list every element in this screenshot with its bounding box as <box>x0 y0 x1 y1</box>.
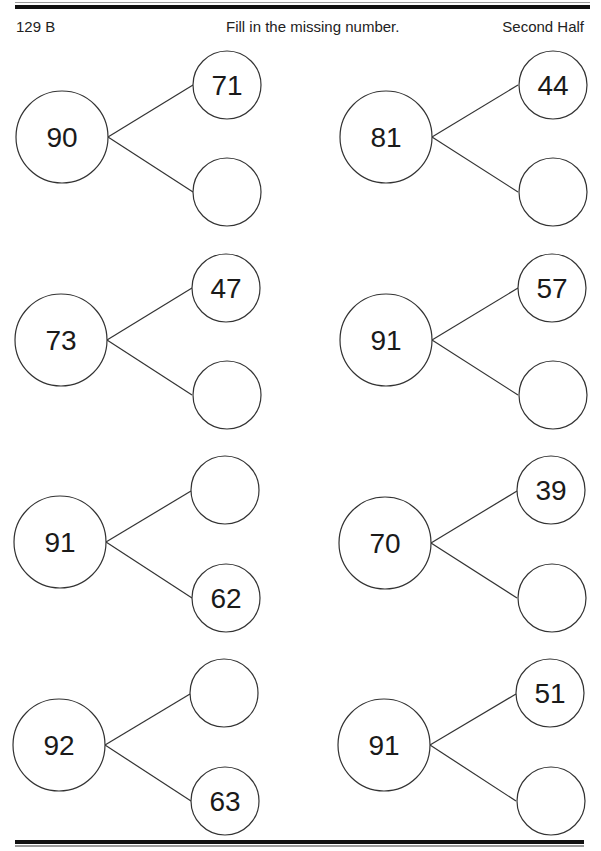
whole-value: 92 <box>43 730 74 761</box>
part-top-value: 71 <box>211 70 242 101</box>
part-top-value: 47 <box>210 273 241 304</box>
whole-value: 91 <box>370 325 401 356</box>
part-bottom-value: 62 <box>210 583 241 614</box>
bottom-thin-rule <box>15 845 584 847</box>
part-top-value: 57 <box>536 273 567 304</box>
number-bond-7: 92 63 <box>13 659 259 835</box>
part-top-circle[interactable] <box>191 456 259 524</box>
part-top-value: 39 <box>535 475 566 506</box>
number-bond-grid: 90 71 81 44 73 47 91 57 <box>0 0 601 851</box>
part-top-value: 44 <box>537 70 568 101</box>
whole-value: 73 <box>45 325 76 356</box>
part-top-circle[interactable] <box>190 659 258 727</box>
part-bottom-circle[interactable] <box>518 564 586 632</box>
number-bond-6: 70 39 <box>339 456 586 632</box>
part-bottom-circle[interactable] <box>517 767 585 835</box>
number-bond-5: 91 62 <box>14 456 260 632</box>
whole-value: 91 <box>368 730 399 761</box>
bottom-thick-rule <box>15 840 584 844</box>
part-top-value: 51 <box>534 678 565 709</box>
number-bond-3: 73 47 <box>15 254 261 429</box>
part-bottom-circle[interactable] <box>193 361 261 429</box>
whole-value: 90 <box>46 122 77 153</box>
part-bottom-value: 63 <box>209 786 240 817</box>
whole-value: 91 <box>44 527 75 558</box>
number-bond-1: 90 71 <box>16 51 261 226</box>
whole-value: 81 <box>370 122 401 153</box>
part-bottom-circle[interactable] <box>519 158 587 226</box>
part-bottom-circle[interactable] <box>519 361 587 429</box>
whole-value: 70 <box>369 528 400 559</box>
number-bond-8: 91 51 <box>338 659 585 835</box>
number-bond-2: 81 44 <box>340 51 587 226</box>
number-bond-4: 91 57 <box>340 254 587 429</box>
part-bottom-circle[interactable] <box>193 158 261 226</box>
